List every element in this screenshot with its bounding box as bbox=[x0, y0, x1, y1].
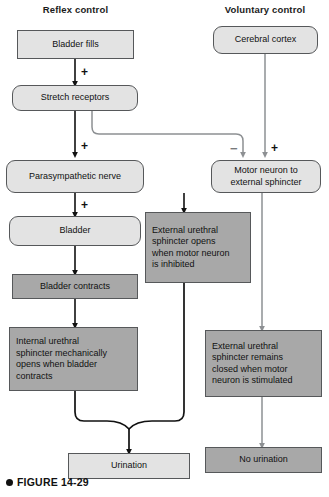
ius-line-2: sphincter mechanically bbox=[16, 348, 107, 360]
figure-bullet-icon bbox=[6, 479, 13, 486]
node-bladder-contracts[interactable]: Bladder contracts bbox=[12, 274, 138, 299]
eus-closed-line-4: neuron is stimulated bbox=[212, 375, 293, 387]
eus-closed-line-2: sphincter remains bbox=[212, 352, 293, 364]
eus-closed-line-3: closed when motor bbox=[212, 364, 293, 376]
wire-eus-opens-merge bbox=[152, 283, 184, 421]
figure-caption: FIGURE 14-29 bbox=[6, 476, 89, 488]
node-no-urination[interactable]: No urination bbox=[205, 447, 322, 473]
node-parasympathetic-nerve[interactable]: Parasympathetic nerve bbox=[6, 160, 144, 193]
node-stretch-receptors-label: Stretch receptors bbox=[41, 92, 110, 104]
sign-plus-parasympathetic-to-bladder: + bbox=[81, 199, 88, 211]
node-external-urethral-sphincter-closed[interactable]: External urethral sphincter remains clos… bbox=[205, 330, 322, 397]
sign-plus-stretch-to-parasympathetic: + bbox=[81, 140, 88, 152]
eus-closed-line-1: External urethral bbox=[212, 341, 293, 353]
eus-opens-line-3: when motor neuron bbox=[152, 248, 230, 260]
sign-plus-bladderfills-to-stretch: + bbox=[81, 66, 88, 78]
column-header-voluntary-control: Voluntary control bbox=[203, 4, 327, 15]
motor-neuron-line-1: Motor neuron to bbox=[230, 165, 301, 177]
eus-opens-line-2: sphincter opens bbox=[152, 236, 230, 248]
node-motor-neuron-to-external-sphincter[interactable]: Motor neuron to external sphincter bbox=[211, 160, 321, 193]
ius-line-3: opens when bladder bbox=[16, 359, 107, 371]
ius-line-1: Internal urethral bbox=[16, 336, 107, 348]
node-urination-label: Urination bbox=[111, 460, 147, 472]
eus-opens-line-4: is inhibited bbox=[152, 259, 230, 271]
figure-caption-label: FIGURE 14-29 bbox=[17, 476, 89, 488]
sign-minus-to-motorneuron: − bbox=[230, 142, 238, 155]
figure-14-29-flowchart: Reflex control Voluntary control Bladder… bbox=[0, 0, 329, 497]
wire-stretch-to-motorneuron-inhibit bbox=[92, 111, 243, 155]
column-header-reflex-control: Reflex control bbox=[18, 4, 133, 15]
node-bladder-fills[interactable]: Bladder fills bbox=[17, 30, 134, 59]
node-parasympathetic-nerve-label: Parasympathetic nerve bbox=[29, 171, 121, 183]
wire-merge-cusp bbox=[107, 421, 152, 429]
ius-line-4: contracts bbox=[16, 371, 107, 383]
node-bladder-fills-label: Bladder fills bbox=[52, 39, 99, 51]
motor-neuron-line-2: external sphincter bbox=[230, 177, 301, 189]
node-cerebral-cortex-label: Cerebral cortex bbox=[235, 34, 297, 46]
node-external-urethral-sphincter-opens[interactable]: External urethral sphincter opens when m… bbox=[145, 212, 251, 283]
node-bladder-label: Bladder bbox=[59, 225, 90, 237]
eus-opens-line-1: External urethral bbox=[152, 225, 230, 237]
wire-internal-sphincter-merge bbox=[75, 391, 107, 421]
sign-plus-cortex-to-motorneuron: + bbox=[271, 142, 278, 154]
node-bladder[interactable]: Bladder bbox=[9, 216, 141, 246]
node-bladder-contracts-label: Bladder contracts bbox=[40, 281, 110, 293]
node-cerebral-cortex[interactable]: Cerebral cortex bbox=[213, 26, 318, 54]
node-stretch-receptors[interactable]: Stretch receptors bbox=[12, 85, 138, 111]
node-no-urination-label: No urination bbox=[239, 454, 288, 466]
node-internal-urethral-sphincter-opens[interactable]: Internal urethral sphincter mechanically… bbox=[9, 327, 138, 391]
